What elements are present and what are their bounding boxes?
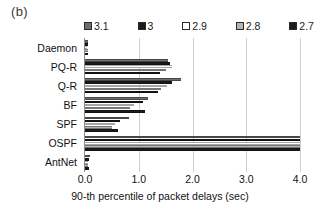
legend-swatch-icon [84, 22, 92, 30]
legend-label: 2.8 [246, 21, 261, 32]
bar-group [85, 97, 300, 112]
gridline [300, 38, 301, 172]
bar [85, 72, 160, 75]
legend-item[interactable]: 2.7 [289, 21, 314, 32]
y-axis-label-bf: BF [64, 100, 77, 111]
x-tick-label: 3.0 [239, 174, 254, 185]
y-axis-label-q-r: Q-R [58, 81, 77, 92]
y-axis-category-labels: DaemonPQ-RQ-RBFSPFOSPFAntNet [0, 38, 81, 172]
y-axis-label-antnet: AntNet [45, 157, 77, 168]
legend-swatch-icon [138, 22, 146, 30]
x-tick-label: 2.0 [185, 174, 200, 185]
bar [85, 91, 158, 94]
bar [85, 148, 300, 151]
y-axis-label-ospf: OSPF [48, 138, 77, 149]
legend-swatch-icon [236, 22, 244, 30]
y-axis-label-daemon: Daemon [37, 42, 77, 53]
bar [85, 53, 88, 56]
legend-label: 2.7 [299, 21, 314, 32]
bar-group [85, 155, 300, 170]
x-axis-title: 90-th percentile of packet delays (sec) [0, 190, 320, 202]
legend-swatch-icon [289, 22, 297, 30]
y-axis-label-pq-r: PQ-R [51, 61, 77, 72]
legend-label: 3 [148, 21, 154, 32]
figure: (b) 3.132.92.82.7 DaemonPQ-RQ-RBFSPFOSPF… [0, 0, 320, 224]
bar-group [85, 40, 300, 55]
bar-group [85, 117, 300, 132]
chart-legend: 3.132.92.82.7 [84, 19, 314, 33]
legend-item[interactable]: 2.8 [236, 21, 261, 32]
x-tick-label: 4.0 [293, 174, 308, 185]
bar-group [85, 78, 300, 93]
x-tick-label: 1.0 [131, 174, 146, 185]
x-tick-label: 0.0 [78, 174, 93, 185]
x-axis-ticks: 0.01.02.03.04.0 [85, 174, 300, 188]
plot-area [85, 38, 300, 172]
legend-item[interactable]: 3 [138, 21, 154, 32]
legend-item[interactable]: 2.9 [182, 21, 207, 32]
legend-label: 2.9 [192, 21, 207, 32]
bar-group [85, 59, 300, 74]
bar-group [85, 136, 300, 151]
legend-swatch-icon [182, 22, 190, 30]
bar [85, 129, 118, 132]
legend-item[interactable]: 3.1 [84, 21, 109, 32]
legend-label: 3.1 [94, 21, 109, 32]
bar [85, 110, 145, 113]
panel-label: (b) [11, 4, 28, 19]
bar [85, 167, 89, 170]
y-axis-label-spf: SPF [57, 119, 77, 130]
